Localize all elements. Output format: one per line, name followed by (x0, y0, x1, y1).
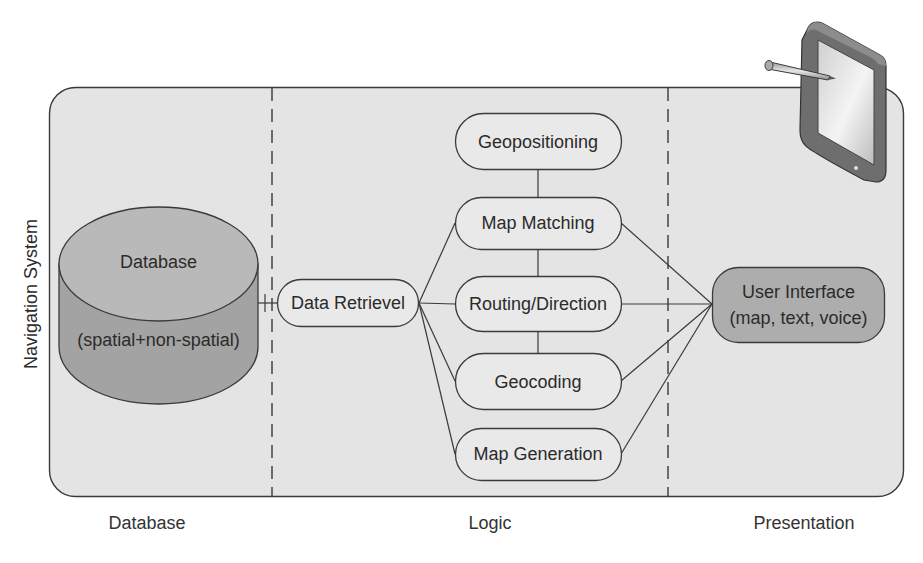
database-cylinder[interactable]: Database (spatial+non-spatial) (59, 207, 258, 404)
logic-node-map-generation[interactable]: Map Generation (456, 429, 622, 481)
data-retrieval-label: Data Retrievel (291, 293, 405, 313)
navigation-system-diagram: Database (spatial+non-spatial) Data Retr… (0, 0, 923, 563)
logic-node-geocoding[interactable]: Geocoding (456, 354, 622, 410)
logic-node-routing-direction[interactable]: Routing/Direction (456, 277, 622, 332)
database-subtitle: (spatial+non-spatial) (77, 330, 240, 350)
user-interface-line1: User Interface (742, 282, 855, 302)
logic-node-geopositioning[interactable]: Geopositioning (456, 114, 622, 170)
user-interface-line2: (map, text, voice) (729, 308, 867, 328)
routing-direction-label: Routing/Direction (469, 294, 607, 314)
data-retrieval-node[interactable]: Data Retrievel (278, 280, 419, 327)
user-interface-node[interactable]: User Interface (map, text, voice) (713, 268, 885, 343)
database-title: Database (120, 252, 197, 272)
logic-node-map-matching[interactable]: Map Matching (456, 198, 622, 250)
geopositioning-label: Geopositioning (478, 132, 598, 152)
tier-label-presentation: Presentation (753, 513, 854, 533)
system-title: Navigation System (21, 219, 41, 369)
map-matching-label: Map Matching (481, 213, 594, 233)
tier-label-logic: Logic (468, 513, 511, 533)
tier-label-database: Database (108, 513, 185, 533)
map-generation-label: Map Generation (473, 444, 602, 464)
geocoding-label: Geocoding (494, 372, 581, 392)
